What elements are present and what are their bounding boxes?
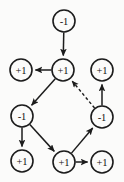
node-bottom-center-plus1-circle[interactable] [53, 151, 75, 173]
node-row3-right-minus1[interactable]: -1 [91, 106, 113, 128]
node-row2-left-plus1[interactable]: +1 [10, 59, 32, 81]
node-row3-left-minus1[interactable]: -1 [11, 105, 33, 127]
node-bottom-left-plus1-circle[interactable] [11, 150, 33, 172]
edges-layer [22, 33, 102, 162]
node-row2-right-plus1-circle[interactable] [91, 59, 113, 81]
node-row3-right-minus1-circle[interactable] [91, 106, 113, 128]
node-bottom-right-plus1-circle[interactable] [91, 151, 113, 173]
node-row2-left-plus1-circle[interactable] [10, 59, 32, 81]
edge-right-minus1-to-center-plus1-dashed [72, 81, 94, 108]
node-row3-left-minus1-circle[interactable] [11, 105, 33, 127]
node-bottom-center-plus1[interactable]: +1 [53, 151, 75, 173]
edge-left-minus1-to-bottom-center-plus1 [30, 125, 54, 152]
node-row2-right-plus1[interactable]: +1 [91, 59, 113, 81]
graph-diagram: -1+1+1+1-1-1+1+1+1 [0, 0, 124, 182]
node-bottom-right-plus1[interactable]: +1 [91, 151, 113, 173]
graph-canvas: -1+1+1+1-1-1+1+1+1 [0, 0, 124, 182]
edge-center-plus1-to-left-minus1 [32, 79, 56, 106]
node-top-minus1[interactable]: -1 [53, 10, 75, 32]
node-top-minus1-circle[interactable] [53, 10, 75, 32]
nodes-layer: -1+1+1+1-1-1+1+1+1 [10, 10, 113, 173]
node-row2-center-plus1[interactable]: +1 [52, 59, 74, 81]
node-row2-center-plus1-circle[interactable] [52, 59, 74, 81]
node-bottom-left-plus1[interactable]: +1 [11, 150, 33, 172]
edge-bottom-center-plus1-to-right-minus1 [71, 128, 92, 153]
